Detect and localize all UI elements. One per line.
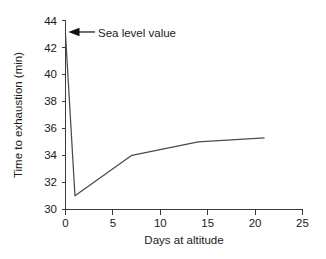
y-tick-label-40: 40: [44, 68, 57, 80]
left-arrow-icon: [69, 28, 80, 36]
x-tick-label-0: 0: [62, 217, 68, 229]
axis-frame: [66, 21, 303, 210]
chart-figure: 44 42 40 38 36 34 32 30 0 5 10: [0, 0, 326, 259]
y-tick-label-44: 44: [44, 15, 57, 27]
y-tick-label-34: 34: [44, 149, 57, 161]
x-axis-title: Days at altitude: [144, 234, 223, 246]
data-series-line: [66, 34, 265, 196]
y-tick-label-42: 42: [44, 42, 57, 54]
x-tick-label-10: 10: [154, 217, 167, 229]
annotation-label: Sea level value: [98, 27, 176, 39]
chart-canvas: 44 42 40 38 36 34 32 30 0 5 10: [0, 0, 326, 259]
x-tick-label-20: 20: [249, 217, 262, 229]
y-axis-ticks: 44 42 40 38 36 34 32 30: [44, 15, 65, 216]
y-axis-title: Time to exhaustion (min): [12, 52, 24, 178]
x-tick-label-25: 25: [296, 217, 309, 229]
y-tick-label-30: 30: [44, 203, 57, 215]
x-tick-label-15: 15: [201, 217, 214, 229]
y-tick-label-38: 38: [44, 95, 57, 107]
sea-level-annotation: Sea level value: [69, 27, 177, 39]
y-tick-label-32: 32: [44, 176, 57, 188]
y-tick-label-36: 36: [44, 122, 57, 134]
x-tick-label-5: 5: [110, 217, 116, 229]
x-axis-ticks: 0 5 10 15 20 25: [62, 210, 309, 230]
